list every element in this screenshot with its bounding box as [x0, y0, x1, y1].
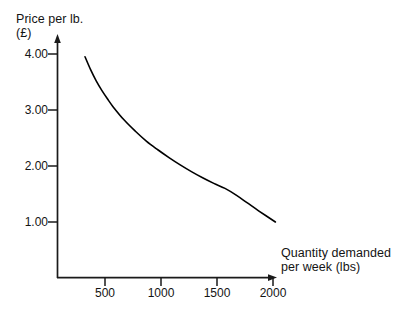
y-axis-ticks — [48, 54, 58, 222]
demand-curve-chart: Price per lb. (£) Quantity demanded per … — [0, 0, 409, 319]
demand-curve-line — [85, 57, 275, 222]
y-axis — [54, 34, 61, 278]
plot-area — [0, 0, 409, 319]
x-axis — [57, 274, 277, 281]
